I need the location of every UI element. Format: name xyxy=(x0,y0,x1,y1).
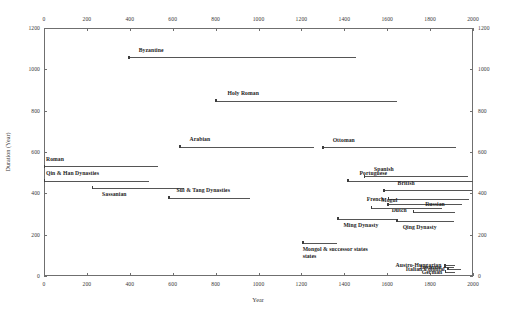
x-tick-label-top: 0 xyxy=(43,16,46,22)
x-tick-bottom xyxy=(344,273,345,276)
x-tick-bottom xyxy=(216,273,217,276)
y-tick-label-right: 600 xyxy=(478,149,487,155)
x-tick-label-top: 1000 xyxy=(253,16,265,22)
x-tick-top xyxy=(344,28,345,31)
x-axis-title: Year xyxy=(252,296,263,303)
y-tick-left xyxy=(44,69,47,70)
empire-span-line xyxy=(413,212,455,213)
x-tick-top xyxy=(430,28,431,31)
y-axis-title: Duration (Year) xyxy=(4,132,11,171)
empire-label: Qing Dynasty xyxy=(403,224,437,230)
empire-start-marker xyxy=(92,186,94,189)
y-tick-right xyxy=(470,69,473,70)
empire-label: Mongol & successor states xyxy=(303,246,368,252)
y-tick-right xyxy=(470,28,473,29)
empire-span-line xyxy=(445,272,455,273)
empire-label: Sassanian xyxy=(102,191,126,197)
empire-start-marker xyxy=(447,267,449,270)
empire-span-line xyxy=(323,147,457,148)
empire-span-line xyxy=(44,181,149,182)
empire-span-line xyxy=(44,166,158,167)
x-tick-label-top: 2000 xyxy=(467,16,479,22)
x-tick-label-bottom: 1000 xyxy=(253,281,265,287)
y-tick-right xyxy=(470,111,473,112)
empire-start-marker xyxy=(44,165,46,168)
x-tick-label-bottom: 1200 xyxy=(296,281,308,287)
empire-label: Holy Roman xyxy=(228,90,259,96)
y-tick-label-left: 200 xyxy=(22,232,40,238)
x-tick-label-top: 400 xyxy=(125,16,134,22)
y-tick-label-right: 200 xyxy=(478,232,487,238)
empire-label: Qin & Han Dynasties xyxy=(46,170,99,176)
y-tick-label-left: 0 xyxy=(22,273,40,279)
x-tick-bottom xyxy=(301,273,302,276)
empire-label: Mogul xyxy=(381,197,397,203)
empire-start-marker xyxy=(322,146,324,149)
empire-span-line xyxy=(303,243,338,244)
x-tick-bottom xyxy=(259,273,260,276)
y-tick-label-right: 800 xyxy=(478,108,487,114)
y-tick-label-left: 800 xyxy=(22,108,40,114)
y-tick-right xyxy=(470,235,473,236)
empire-label: Sui & Tang Dynasties xyxy=(177,187,230,193)
x-tick-label-bottom: 200 xyxy=(83,281,92,287)
y-tick-left xyxy=(44,28,47,29)
x-tick-top xyxy=(216,28,217,31)
empire-span-line xyxy=(92,188,184,189)
x-tick-top xyxy=(130,28,131,31)
empire-label: Ming Dynasty xyxy=(343,222,378,228)
x-tick-label-top: 1400 xyxy=(339,16,351,22)
y-tick-label-right: 400 xyxy=(478,190,487,196)
x-tick-top xyxy=(87,28,88,31)
x-tick-label-bottom: 0 xyxy=(43,281,46,287)
empire-span-line xyxy=(397,221,454,222)
x-tick-label-bottom: 2000 xyxy=(467,281,479,287)
empire-span-line xyxy=(169,198,250,199)
x-tick-label-bottom: 800 xyxy=(211,281,220,287)
x-tick-top xyxy=(301,28,302,31)
empire-start-marker xyxy=(179,145,181,148)
empire-label: British xyxy=(398,180,415,186)
y-tick-left xyxy=(44,111,47,112)
y-tick-right xyxy=(470,276,473,277)
y-tick-left xyxy=(44,193,47,194)
empire-label: Portuguese xyxy=(360,170,388,176)
empire-label: German xyxy=(422,269,443,275)
x-tick-top xyxy=(387,28,388,31)
empire-span-line xyxy=(448,269,461,270)
y-tick-label-right: 1000 xyxy=(478,66,490,72)
y-tick-label-left: 1200 xyxy=(22,25,40,31)
x-tick-top xyxy=(173,28,174,31)
x-tick-top xyxy=(473,28,474,31)
empire-start-marker xyxy=(128,56,130,59)
x-tick-label-bottom: 1600 xyxy=(381,281,393,287)
x-tick-label-bottom: 1400 xyxy=(339,281,351,287)
empire-start-marker xyxy=(445,270,447,273)
empire-start-marker xyxy=(371,206,373,209)
empire-span-line xyxy=(216,101,398,102)
empire-start-marker xyxy=(396,219,398,222)
x-tick-label-top: 600 xyxy=(168,16,177,22)
x-tick-label-bottom: 400 xyxy=(125,281,134,287)
empire-label: Russian xyxy=(425,201,445,207)
y-tick-label-left: 400 xyxy=(22,190,40,196)
x-tick-bottom xyxy=(173,273,174,276)
y-tick-label-right: 0 xyxy=(478,273,481,279)
y-tick-left xyxy=(44,152,47,153)
empire-start-marker xyxy=(387,203,389,206)
x-tick-label-top: 200 xyxy=(83,16,92,22)
empire-start-marker xyxy=(383,189,385,192)
x-tick-bottom xyxy=(473,273,474,276)
empire-start-marker xyxy=(302,241,304,244)
y-tick-right xyxy=(470,193,473,194)
empire-span-line xyxy=(337,219,396,220)
plot-area xyxy=(44,28,473,276)
x-tick-bottom xyxy=(130,273,131,276)
empire-start-marker xyxy=(44,179,46,182)
empire-span-line xyxy=(388,199,468,200)
empire-start-marker xyxy=(347,179,349,182)
y-tick-right xyxy=(470,152,473,153)
empire-label: Byzantine xyxy=(139,47,164,53)
empire-start-marker xyxy=(413,210,415,213)
x-tick-label-bottom: 1800 xyxy=(424,281,436,287)
